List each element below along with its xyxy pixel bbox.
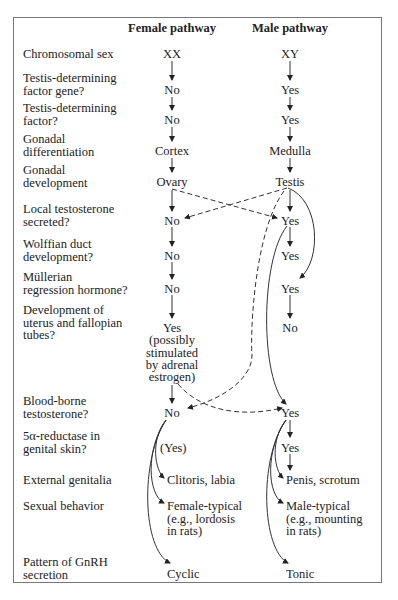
arrow-f-fan-3 (148, 420, 170, 563)
arrow-testis-to-mullerian (288, 188, 315, 278)
arrow-f-fan-2 (151, 420, 166, 503)
arrow-local-to-bloodborne (267, 226, 287, 404)
dashed-estrogen-to-blood-yes (178, 384, 282, 412)
dashed-ovary-to-local-yes (172, 189, 277, 218)
arrow-m-fan-2 (271, 420, 286, 503)
dashed-testis-to-blood-no (188, 191, 284, 408)
arrow-m-fan-3 (267, 420, 288, 563)
pathway-arrows (0, 0, 398, 600)
